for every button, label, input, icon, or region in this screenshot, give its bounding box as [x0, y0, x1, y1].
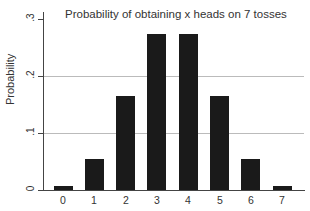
- x-tick-label: 5: [210, 194, 230, 206]
- x-tick-label: 6: [241, 194, 261, 206]
- x-tick-label: 4: [178, 194, 198, 206]
- x-tick-label: 3: [147, 194, 167, 206]
- chart-title: Probability of obtaining x heads on 7 to…: [65, 8, 287, 20]
- y-tick-label: 0: [25, 181, 36, 197]
- y-axis-label: Probability: [4, 54, 16, 105]
- bar-1: [85, 159, 104, 190]
- y-tick-label: .3: [25, 10, 36, 26]
- x-tick-label: 7: [272, 194, 292, 206]
- x-axis: [43, 190, 305, 191]
- bar-5: [210, 96, 229, 190]
- y-tick-label: .2: [25, 67, 36, 83]
- y-tick-label: .1: [25, 124, 36, 140]
- bar-7: [273, 186, 292, 190]
- x-tick-label: 0: [53, 194, 73, 206]
- bar-0: [54, 186, 73, 190]
- bar-2: [116, 96, 135, 190]
- bar-6: [241, 159, 260, 190]
- bar-4: [179, 34, 198, 190]
- x-tick-label: 2: [116, 194, 136, 206]
- x-tick-label: 1: [84, 194, 104, 206]
- y-axis: [43, 12, 44, 191]
- gridline: [44, 133, 304, 134]
- bar-3: [147, 34, 166, 190]
- gridline: [44, 76, 304, 77]
- bar-chart: Probability of obtaining x heads on 7 to…: [0, 0, 310, 211]
